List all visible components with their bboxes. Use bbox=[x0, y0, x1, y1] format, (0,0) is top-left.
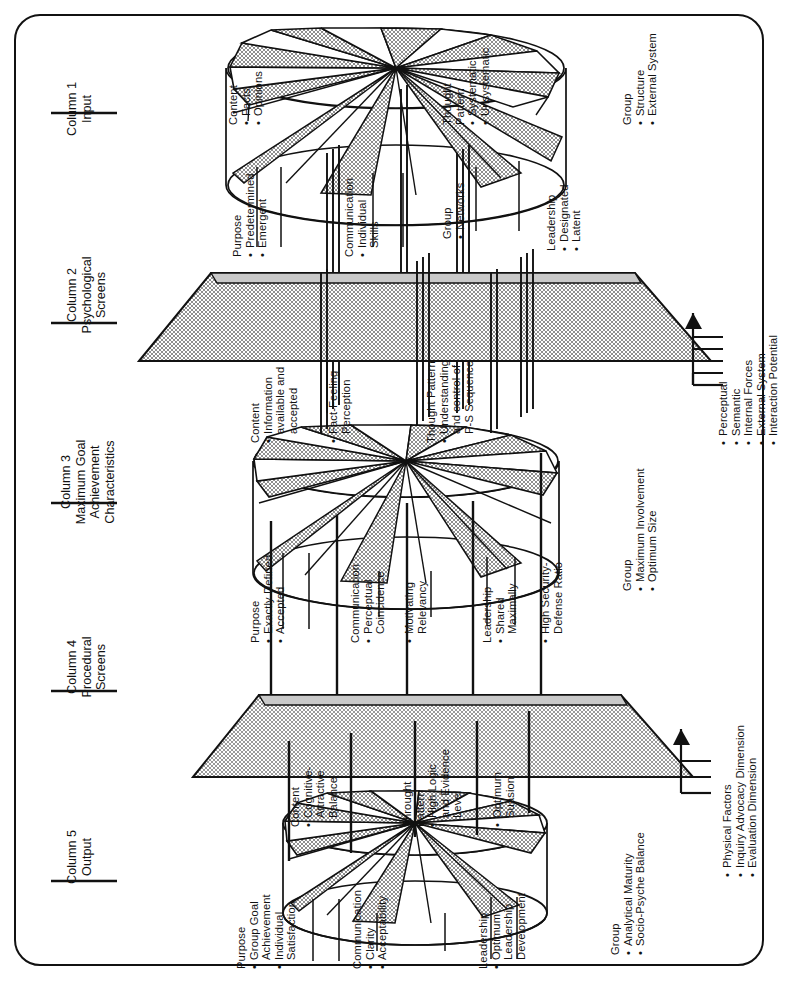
column-name-col4-l1: Procedural bbox=[80, 567, 95, 767]
col3-motiv-item-0: Motivating bbox=[403, 582, 415, 634]
col4-screen-inputs: Physical Factors Inquiry Advocacy Dimens… bbox=[721, 725, 759, 877]
col3-comm-head: Communication bbox=[349, 564, 362, 643]
column-label-col2: Column 2 Psychological Screens bbox=[65, 195, 109, 395]
col1-group-group-structure: Group Structure External System bbox=[621, 33, 659, 125]
col3-ff-item-0: Fact-Feeling bbox=[327, 371, 339, 434]
col1-lead-item-0: Designated bbox=[558, 184, 570, 242]
col1-content-item-1: Opinions bbox=[252, 71, 264, 116]
col3-thought-item-0: Understanding bbox=[438, 360, 450, 434]
col5-group-head: Group bbox=[609, 832, 622, 955]
col2-input-2: Internal Forces bbox=[742, 360, 754, 436]
col5-thought-head-l1: Throught bbox=[401, 749, 414, 827]
col3-content-item-1: available and bbox=[274, 367, 287, 443]
col3-group-motivating: Motivating Relevancy bbox=[403, 581, 428, 643]
col3-ff-item-1: Perception bbox=[340, 371, 353, 443]
column-number-col2: Column 2 bbox=[65, 195, 80, 395]
col4-input-2: Evaluation Dimension bbox=[746, 758, 758, 868]
col1-lead-item-1: Latent bbox=[570, 210, 582, 242]
col1-group-thought: Thought Pattern Systematic Unsystematic bbox=[441, 48, 491, 125]
col3-comm-item-0: Perceptual bbox=[362, 580, 374, 635]
col4-input-1: Inquiry Advocacy Dimension bbox=[734, 725, 746, 868]
col5-suasion-item-1: Suasion bbox=[504, 772, 517, 827]
col1-thought-item-0: Systematic bbox=[466, 60, 478, 116]
col5-group-leadership: Leadership Optimum Leadership Developmen… bbox=[477, 893, 527, 969]
diagram-canvas: Column 5 Output Column 4 Procedural Scre… bbox=[21, 21, 771, 973]
col2-input-3: External System bbox=[755, 353, 767, 436]
col2-input-4: Interaction Potential bbox=[767, 335, 779, 436]
column-name-col2-l2: Screens bbox=[94, 195, 109, 395]
col5-group-suasion: Optimum Suasion bbox=[491, 772, 516, 827]
col5-group-purpose: Purpose Group Goal Achievement Individua… bbox=[235, 894, 298, 969]
col1-thought-head-l2: Pattern bbox=[454, 48, 467, 125]
col5-purpose-item-2: Individual bbox=[273, 912, 285, 960]
col3-group-content: Content Information available and accept… bbox=[249, 367, 299, 443]
col1-purpose-item-0: Predetermined bbox=[244, 173, 256, 248]
col1-group-content: Content Facts Opinions bbox=[227, 71, 265, 125]
column-label-col5: Column 5 Output bbox=[65, 757, 94, 957]
col5-group-content: Content Cognitive- Attractive Balance bbox=[289, 767, 339, 827]
column-number-col5: Column 5 bbox=[65, 757, 80, 957]
col1-purpose-head: Purpose bbox=[231, 173, 244, 257]
col2-input-1: Semantic bbox=[730, 389, 742, 436]
col3-group-head: Group bbox=[621, 468, 634, 591]
screen4-arrowhead bbox=[673, 729, 690, 745]
col3-group-security: High Security- Defense Ratio bbox=[539, 562, 564, 643]
column-number-col1: Column 1 bbox=[65, 9, 80, 209]
col3-group-purpose: Purpose Exactly Defined Accepted bbox=[249, 555, 287, 643]
col5-lead-item-2: Development bbox=[515, 893, 528, 969]
col3-purpose-item-0: Exactly Defined bbox=[262, 555, 274, 634]
col5-suasion-item-0: Optimum bbox=[491, 772, 503, 818]
col1-group-group-networks: Group Networks bbox=[441, 183, 466, 239]
col1-purpose-item-1: Emergent bbox=[256, 199, 268, 248]
column-name-col5: Output bbox=[80, 757, 95, 957]
col5-purpose-item-1: Achievement bbox=[260, 894, 273, 969]
col1-groupstr-head: Group bbox=[621, 33, 634, 125]
col3-purpose-head: Purpose bbox=[249, 555, 262, 643]
col1-groupstr-item-0: Structure bbox=[634, 70, 646, 116]
col5-thought-item-1: and Evidence bbox=[439, 749, 452, 827]
col2-input-0: Perceptual bbox=[717, 382, 729, 437]
col5-group-communication: Communication Clarity Acceptability bbox=[351, 890, 389, 969]
column-name-col3-l1: Maximum Goal bbox=[74, 377, 89, 587]
column-name-col1: Input bbox=[80, 9, 95, 209]
col3-lead-head: Leadership bbox=[481, 583, 494, 643]
col3-lead-item-1: Maximally bbox=[506, 583, 519, 643]
col1-comm-item-1: Skills bbox=[368, 178, 381, 257]
col1-thought-head-l1: Thought bbox=[441, 48, 454, 125]
col3-thought-head: Thought Pattern bbox=[425, 360, 438, 443]
col1-comm-item-0: Individual bbox=[356, 200, 368, 248]
col5-lead-item-1: Leadership bbox=[502, 893, 515, 969]
col3-group-item-0: Maximum Involvement bbox=[634, 468, 646, 582]
col5-lead-head: Leadership bbox=[477, 893, 490, 969]
col3-content-item-2: accepted bbox=[287, 367, 300, 443]
col5-comm-item-0: Clarity bbox=[364, 928, 376, 960]
col1-content-item-0: Facts bbox=[240, 88, 252, 116]
col3-thought-item-2: P-S Sequence bbox=[463, 360, 476, 443]
col5-comm-head: Communication bbox=[351, 890, 364, 969]
column-name-col4-l2: Screens bbox=[94, 567, 109, 767]
col5-content-item-1: Attractive bbox=[314, 767, 327, 827]
column-number-col4: Column 4 bbox=[65, 567, 80, 767]
col1-groupnet-head: Group bbox=[441, 183, 454, 239]
col5-purpose-item-3: Satisfaction bbox=[285, 894, 298, 969]
col3-group-item-1: Optimum Size bbox=[646, 511, 658, 582]
col5-thought-item-2: Level bbox=[451, 749, 464, 827]
col1-group-communication: Communication Individual Skills bbox=[343, 178, 381, 257]
col5-group-item-1: Socio-Psyche Balance bbox=[634, 832, 646, 946]
col5-thought-head-l2: Pattern bbox=[414, 749, 427, 827]
col1-content-head: Content bbox=[227, 71, 240, 125]
col3-thought-item-1: and control of bbox=[450, 360, 463, 443]
col1-groupstr-item-1: External System bbox=[646, 33, 658, 116]
col5-content-item-0: Cognitive- bbox=[302, 767, 314, 818]
col3-group-thought: Thought Pattern Understanding and contro… bbox=[425, 360, 475, 443]
col3-lead-item-0: Shared bbox=[494, 597, 506, 634]
col1-groupnet-item-0: Networks bbox=[454, 183, 466, 230]
col1-thought-item-1: Unsystematic bbox=[479, 48, 491, 116]
column-label-col3: Column 3 Maximum Goal Achievement Charac… bbox=[59, 377, 117, 587]
col5-purpose-head: Purpose bbox=[235, 894, 248, 969]
column-label-col1: Column 1 Input bbox=[65, 9, 94, 209]
col1-group-purpose: Purpose Predetermined Emergent bbox=[231, 173, 269, 257]
col3-content-head: Content bbox=[249, 367, 262, 443]
col3-group-leadership: Leadership Shared Maximally bbox=[481, 583, 519, 643]
column-number-col3: Column 3 bbox=[59, 377, 74, 587]
